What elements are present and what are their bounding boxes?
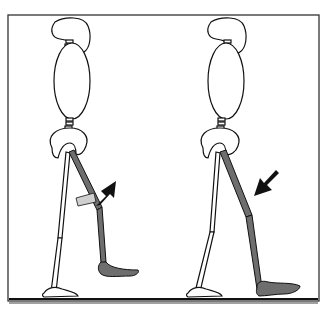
back-shin <box>195 232 214 292</box>
lumbar-vertebrae <box>217 118 225 129</box>
highlighted-foot <box>256 281 300 296</box>
highlighted-shin <box>97 207 106 263</box>
back-foot <box>187 287 223 297</box>
highlighted-shin <box>246 215 262 289</box>
lumbar-vertebrae <box>65 118 73 129</box>
back-foot <box>43 287 79 297</box>
torso <box>208 43 244 119</box>
left-figure <box>43 18 139 297</box>
back-leg <box>58 152 70 238</box>
torso <box>54 43 90 119</box>
walking-skeleton-diagram <box>0 0 328 312</box>
back-shin <box>51 238 62 292</box>
back-leg <box>210 152 220 232</box>
hip-flexor-band <box>76 193 96 206</box>
arrow-down-left-icon <box>254 170 279 196</box>
frame-border <box>8 15 319 301</box>
highlighted-foot <box>98 262 138 277</box>
right-figure <box>187 18 301 297</box>
highlighted-thigh <box>220 150 252 217</box>
